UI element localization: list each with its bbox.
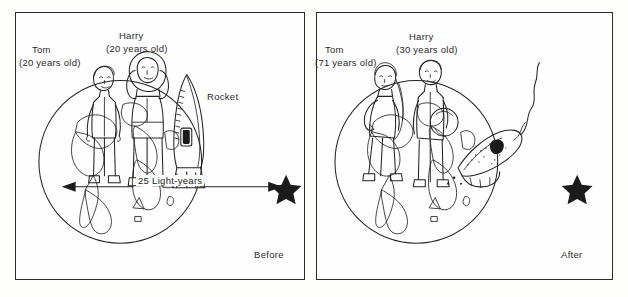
person-tom-after: [363, 63, 403, 181]
person-harry-before: [127, 52, 169, 186]
label-tom-age-before: (20 years old): [19, 56, 81, 70]
label-tom-name-before: Tom: [32, 43, 51, 57]
label-tom-name-after: Tom: [325, 43, 344, 57]
label-tom-age-after: (71 years old): [315, 56, 377, 70]
label-rocket-before: Rocket: [207, 91, 238, 102]
illustration-root: Tom (20 years old) Harry (20 years old) …: [0, 0, 628, 297]
panel-after: Tom (71 years old) Harry (30 years old) …: [316, 12, 613, 280]
star-before: [271, 175, 302, 205]
star-after: [562, 175, 593, 205]
rocket-before: [162, 75, 205, 188]
label-harry-name-before: Harry: [119, 29, 143, 43]
after-panel-artwork: [317, 13, 612, 279]
label-distance-before: 25 Light-years: [136, 175, 204, 186]
rocket-after: [447, 63, 539, 188]
label-harry-name-after: Harry: [409, 30, 433, 44]
label-harry-age-before: (20 years old): [106, 42, 168, 56]
caption-before: Before: [254, 249, 284, 260]
panel-before: Tom (20 years old) Harry (20 years old) …: [15, 12, 305, 280]
label-harry-age-after: (30 years old): [396, 43, 458, 57]
caption-after: After: [561, 249, 583, 260]
